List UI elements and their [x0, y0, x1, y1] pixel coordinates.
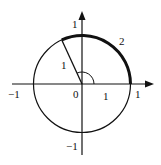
y-label-neg: −1: [66, 140, 78, 152]
radius-length-label: 1: [61, 59, 67, 71]
y-axis-arrow-icon: [79, 11, 86, 20]
origin-label: 0: [73, 88, 79, 100]
x-label-neg: −1: [8, 88, 20, 100]
y-label-pos: 1: [72, 18, 78, 30]
segment-length-label: 1: [103, 90, 109, 102]
x-axis-arrow-icon: [145, 81, 154, 88]
unit-circle-diagram: 1 2 1 −1 0 1 1 −1: [0, 0, 161, 165]
arc-length-label: 2: [119, 35, 125, 47]
x-label-pos: 1: [135, 88, 141, 100]
